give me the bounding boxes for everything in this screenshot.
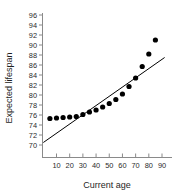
data-point	[67, 114, 72, 119]
y-tick-label: 72	[29, 131, 37, 140]
data-points	[47, 37, 158, 121]
data-point	[153, 37, 158, 42]
y-tick-label: 80	[29, 91, 37, 100]
x-tick-label: 90	[158, 161, 166, 170]
y-tick-label: 92	[29, 31, 37, 40]
y-tick-label: 74	[29, 121, 37, 130]
x-axis-title: Current age	[83, 180, 131, 190]
x-tick-label: 10	[52, 161, 60, 170]
y-tick-label: 84	[29, 71, 37, 80]
y-tick-label: 94	[29, 21, 37, 30]
data-point	[54, 115, 59, 120]
data-point	[80, 112, 85, 117]
x-tick-label: 80	[145, 161, 153, 170]
data-point	[87, 109, 92, 114]
data-point	[133, 75, 138, 80]
data-point	[126, 84, 131, 89]
y-tick-label: 90	[29, 41, 37, 50]
y-tick-label: 70	[29, 141, 37, 150]
x-tick-label: 60	[118, 161, 126, 170]
data-point	[100, 104, 105, 109]
y-tick-label: 82	[29, 81, 37, 90]
y-tick-label: 76	[29, 111, 37, 120]
x-tick-label: 30	[79, 161, 87, 170]
x-tick-label: 40	[92, 161, 100, 170]
y-tick-label: 96	[29, 11, 37, 20]
data-point	[60, 115, 65, 120]
scatter-plot: 7072747678808284868890929496 10203040506…	[0, 0, 182, 192]
data-point	[140, 64, 145, 69]
x-tick-label: 50	[105, 161, 113, 170]
data-point	[113, 97, 118, 102]
x-tick-label: 20	[66, 161, 74, 170]
y-tick-label: 86	[29, 61, 37, 70]
x-axis-tick-labels: 102030405060708090	[52, 161, 166, 170]
chart-container: 7072747678808284868890929496 10203040506…	[0, 0, 182, 192]
y-tick-label: 78	[29, 101, 37, 110]
data-point	[47, 116, 52, 121]
y-axis-title: Expected lifespan	[4, 52, 14, 123]
regression-line-path	[43, 58, 164, 143]
data-point	[107, 101, 112, 106]
data-point	[74, 114, 79, 119]
regression-line	[43, 58, 164, 143]
x-tick-label: 70	[132, 161, 140, 170]
y-axis-tick-labels: 7072747678808284868890929496	[29, 11, 37, 150]
data-point	[120, 91, 125, 96]
y-tick-label: 88	[29, 51, 37, 60]
data-point	[93, 107, 98, 112]
data-point	[146, 51, 151, 56]
